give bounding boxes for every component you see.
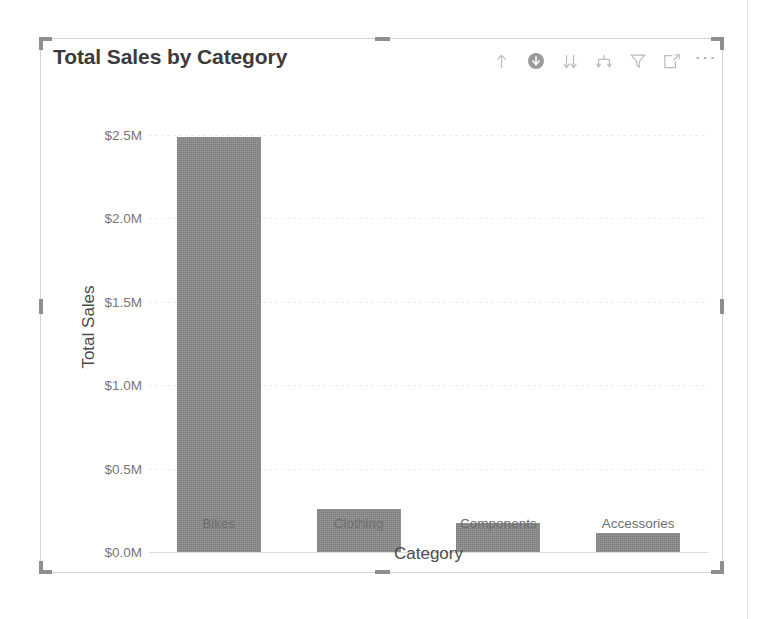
y-axis-ticks: $0.0M$0.5M$1.0M$1.5M$2.0M$2.5M	[71, 81, 149, 572]
x-axis-tick-label: Accessories	[602, 516, 675, 531]
x-axis-title: Category	[149, 544, 708, 564]
bar-bikes[interactable]	[177, 137, 261, 552]
resize-handle-bottom-right-v[interactable]	[720, 561, 724, 574]
expand-all-icon[interactable]	[559, 51, 580, 72]
resize-handle-top-left-v[interactable]	[39, 37, 43, 50]
plot-area: Total Sales $0.0M$0.5M$1.0M$1.5M$2.0M$2.…	[41, 81, 722, 572]
filter-icon[interactable]	[627, 51, 648, 72]
y-axis-tick-label: $2.5M	[104, 128, 149, 143]
y-axis-tick-label: $0.5M	[104, 461, 149, 476]
resize-handle-top-right-v[interactable]	[720, 37, 724, 50]
more-options-icon[interactable]: ···	[695, 46, 716, 76]
x-axis-ticks: BikesClothingComponentsAccessories	[41, 516, 722, 536]
chart-visual-container[interactable]: Total Sales by Category	[40, 38, 723, 573]
resize-handle-bottom-center[interactable]	[375, 570, 390, 574]
x-axis-tick-label: Components	[460, 516, 537, 531]
focus-mode-icon[interactable]	[661, 51, 682, 72]
panel-divider	[747, 0, 748, 619]
y-axis-tick-label: $1.5M	[104, 294, 149, 309]
bar-series	[149, 81, 708, 572]
y-axis-tick-label: $1.0M	[104, 378, 149, 393]
x-axis-tick-label: Clothing	[334, 516, 384, 531]
resize-handle-top-center[interactable]	[375, 37, 390, 41]
chart-title: Total Sales by Category	[53, 45, 287, 69]
resize-handle-bottom-left-v[interactable]	[39, 561, 43, 574]
resize-handle-right-middle[interactable]	[720, 299, 724, 314]
x-axis-tick-label: Bikes	[202, 516, 235, 531]
drill-down-toggle-icon[interactable]	[525, 51, 546, 72]
grid-area	[149, 81, 708, 572]
expand-hierarchy-icon[interactable]	[593, 51, 614, 72]
visual-header: Total Sales by Category	[41, 39, 722, 81]
y-axis-tick-label: $0.0M	[104, 545, 149, 560]
y-axis-tick-label: $2.0M	[104, 211, 149, 226]
visual-toolbar[interactable]: ···	[491, 46, 716, 76]
drill-up-icon[interactable]	[491, 51, 512, 72]
resize-handle-left-middle[interactable]	[39, 299, 43, 314]
